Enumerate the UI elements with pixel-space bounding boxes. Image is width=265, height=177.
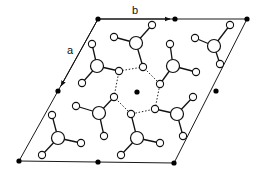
central-atom xyxy=(91,60,104,73)
lattice-point xyxy=(134,89,139,94)
molecule xyxy=(117,110,163,158)
central-atom xyxy=(131,132,144,145)
hydrogen-atom xyxy=(148,21,155,28)
molecule xyxy=(38,111,84,158)
molecule xyxy=(78,40,122,86)
axis-b-label: b xyxy=(132,4,138,16)
central-atom xyxy=(130,37,143,50)
cell-axes: ba xyxy=(61,4,170,86)
central-atom xyxy=(208,40,221,53)
hydrogen-atom xyxy=(151,105,158,112)
hydrogen-atom xyxy=(192,68,199,75)
hydrogen-atom xyxy=(191,34,198,41)
crystal-structure-diagram: ba xyxy=(0,0,265,177)
molecule xyxy=(156,40,199,87)
hydrogen-atom xyxy=(127,110,134,117)
hydrogen-atom xyxy=(110,33,117,40)
central-atom xyxy=(171,108,184,121)
molecule xyxy=(72,93,117,139)
hydrogen-atom xyxy=(156,80,163,87)
hydrogen-atom xyxy=(88,40,95,47)
lattice-point xyxy=(16,158,21,163)
central-atom xyxy=(167,60,180,73)
axis-a-label: a xyxy=(67,44,74,56)
hydrogen-atom xyxy=(216,60,223,67)
hydrogen-atom xyxy=(156,139,163,146)
central-atom xyxy=(52,132,65,145)
lattice-point xyxy=(95,159,100,164)
hydrogen-atom xyxy=(139,63,146,70)
hydrogen-atom xyxy=(48,111,55,118)
lattice-point xyxy=(95,16,100,21)
lattice-point xyxy=(213,88,218,93)
hydrogen-atom xyxy=(110,93,117,100)
hydrogen-atom xyxy=(166,40,173,47)
hydrogen-atom xyxy=(117,151,124,158)
hydrogen-atom xyxy=(100,132,107,139)
hydrogen-atom xyxy=(77,139,84,146)
central-atom xyxy=(93,107,106,120)
hydrogen-atom xyxy=(38,151,45,158)
hydrogen-atom xyxy=(78,79,85,86)
lattice-point xyxy=(55,88,60,93)
hydrogen-atom xyxy=(226,21,233,28)
hydrogen-atom xyxy=(72,102,79,109)
hydrogen-atom xyxy=(115,67,122,74)
hydrogen-atom xyxy=(179,132,186,139)
lattice-point xyxy=(171,160,176,165)
molecule xyxy=(191,21,233,67)
lattice-point xyxy=(244,16,249,21)
molecule xyxy=(110,21,155,70)
lattice-point xyxy=(172,16,177,21)
hydrogen-atom xyxy=(189,93,196,100)
